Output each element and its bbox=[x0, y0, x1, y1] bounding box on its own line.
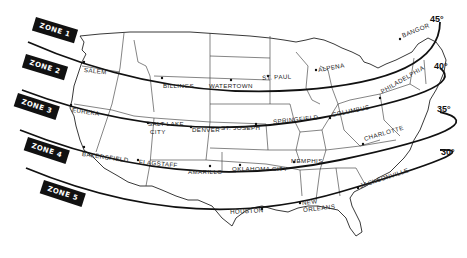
zone-boundary-3 bbox=[20, 112, 456, 172]
city-salt-lake-city: CITY bbox=[150, 128, 166, 135]
latitude-label-40: 40° bbox=[434, 61, 448, 71]
latitude-label-35: 35° bbox=[437, 104, 451, 114]
latitude-label-45: 45° bbox=[430, 14, 444, 24]
city-denver: DENVER bbox=[192, 126, 220, 133]
city-memphis: MEMPHIS bbox=[291, 157, 323, 164]
city-amarillo: AMARILLO bbox=[188, 168, 223, 175]
city-oklahoma-city: OKLAHOMA CITY bbox=[232, 165, 288, 172]
city-billings: BILLINGS bbox=[163, 82, 194, 89]
state-boundaries bbox=[74, 33, 426, 200]
city-watertown: WATERTOWN bbox=[209, 82, 253, 89]
city-st-joseph: ST. JOSEPH bbox=[221, 124, 260, 131]
latitude-label-30: 30° bbox=[441, 147, 455, 157]
city-salt-lake: SALT LAKE bbox=[148, 120, 184, 127]
latitude-lines bbox=[20, 22, 456, 209]
